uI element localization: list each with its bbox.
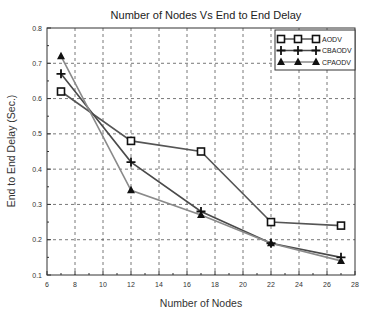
y-axis-label: End to End Delay (Sec.) (5, 95, 17, 208)
series-group (57, 52, 346, 264)
chart-title: Number of Nodes Vs End to End Delay (111, 9, 302, 21)
chart: Number of Nodes Vs End to End Delay 6810… (0, 0, 372, 321)
x-tick-label: 10 (99, 281, 107, 288)
x-tick-label: 12 (127, 281, 135, 288)
data-point-aodv (198, 148, 205, 155)
series-line-aodv (61, 92, 341, 226)
y-tick-label: 0.2 (32, 236, 42, 243)
series-line-cpaodv (61, 56, 341, 261)
x-tick-label: 20 (239, 281, 247, 288)
legend: AODVCBAODVCPAODV (275, 30, 355, 70)
legend-marker-aodv (278, 36, 285, 43)
legend-label-cbaodv: CBAODV (322, 47, 352, 54)
x-tick-label: 26 (323, 281, 331, 288)
y-tick-label: 0.5 (32, 130, 42, 137)
y-tick-label: 0.1 (32, 272, 42, 279)
x-tick-label: 14 (155, 281, 163, 288)
x-tick-label: 24 (295, 281, 303, 288)
data-point-aodv (58, 88, 65, 95)
y-tick-label: 0.4 (32, 166, 42, 173)
y-tick-label: 0.6 (32, 95, 42, 102)
data-point-aodv (268, 219, 275, 226)
y-tick-label: 0.3 (32, 201, 42, 208)
data-point-cpaodv (127, 186, 135, 194)
data-point-aodv (338, 222, 345, 229)
x-tick-label: 6 (45, 281, 49, 288)
data-point-cpaodv (57, 52, 65, 60)
x-tick-label: 16 (183, 281, 191, 288)
legend-marker-aodv (313, 36, 320, 43)
y-tick-label: 0.8 (32, 25, 42, 32)
legend-marker-aodv (295, 36, 302, 43)
x-axis-label: Number of Nodes (160, 297, 242, 309)
y-tick-label: 0.7 (32, 60, 42, 67)
legend-label-aodv: AODV (322, 36, 342, 43)
x-tick-label: 28 (351, 281, 359, 288)
x-tick-label: 8 (73, 281, 77, 288)
x-tick-label: 18 (211, 281, 219, 288)
data-point-aodv (128, 137, 135, 144)
legend-label-cpaodv: CPAODV (322, 59, 351, 66)
x-tick-label: 22 (267, 281, 275, 288)
